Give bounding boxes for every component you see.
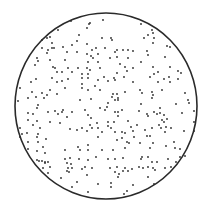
dot: [111, 96, 113, 98]
dot: [116, 166, 118, 168]
dot: [127, 170, 129, 172]
dot: [46, 52, 48, 54]
dot: [110, 37, 112, 39]
dot: [53, 47, 55, 49]
dot: [107, 80, 109, 82]
dot: [170, 166, 172, 168]
dot: [37, 141, 39, 143]
dot: [76, 181, 78, 183]
dot: [81, 83, 83, 85]
dot: [117, 97, 119, 99]
dot: [56, 93, 58, 95]
dot: [60, 177, 62, 179]
dot: [37, 60, 39, 62]
dot: [117, 115, 119, 117]
dot: [153, 111, 155, 113]
dot: [141, 156, 143, 158]
dot: [146, 135, 148, 137]
dot: [32, 113, 34, 115]
dot: [146, 113, 148, 115]
dot: [160, 127, 162, 129]
dot: [21, 133, 23, 135]
dot: [94, 85, 96, 87]
dot: [126, 141, 128, 143]
dot: [38, 160, 40, 162]
dot: [81, 87, 83, 89]
dot: [157, 71, 159, 73]
dot: [97, 127, 99, 129]
dot: [121, 137, 123, 139]
dot: [61, 111, 63, 113]
dot: [128, 142, 130, 144]
dot: [122, 49, 124, 51]
dot: [123, 193, 125, 195]
dot: [71, 44, 73, 46]
dot: [144, 129, 146, 131]
dot: [67, 167, 69, 169]
dot: [124, 132, 126, 134]
dot: [139, 142, 141, 144]
dot: [112, 149, 114, 151]
dot: [79, 99, 81, 101]
dot: [64, 87, 66, 89]
dot: [78, 158, 80, 160]
dot: [87, 77, 89, 79]
dot: [165, 145, 167, 147]
dot: [97, 61, 99, 63]
dot: [86, 67, 88, 69]
scattered-dots-group: [17, 19, 195, 195]
dot: [87, 61, 89, 63]
dot: [132, 81, 134, 83]
dot: [156, 161, 158, 163]
dot: [164, 131, 166, 133]
dot: [66, 51, 68, 53]
dot: [56, 71, 58, 73]
dot: [131, 168, 133, 170]
dot: [152, 66, 154, 68]
dot: [36, 136, 38, 138]
dot: [71, 186, 73, 188]
dot: [132, 67, 134, 69]
dot: [36, 107, 38, 109]
dot: [114, 51, 116, 53]
dot: [164, 167, 166, 169]
dot: [147, 34, 149, 36]
dot: [140, 61, 142, 63]
dot: [147, 166, 149, 168]
dot: [107, 125, 109, 127]
dot: [153, 37, 155, 39]
dot: [121, 109, 123, 111]
dot: [62, 46, 64, 48]
dot: [76, 51, 78, 53]
dot: [57, 29, 59, 31]
dot: [47, 111, 49, 113]
dot: [151, 161, 153, 163]
dot: [177, 70, 179, 72]
dot: [193, 110, 195, 112]
dot: [170, 127, 172, 129]
dot: [114, 158, 116, 160]
dot: [152, 142, 154, 144]
dot: [102, 19, 104, 21]
dot: [47, 49, 49, 51]
dot: [106, 106, 108, 108]
dot: [95, 156, 97, 158]
dot: [91, 49, 93, 51]
dot: [51, 42, 53, 44]
dot: [127, 120, 129, 122]
dot: [124, 167, 126, 169]
dot: [111, 39, 113, 41]
dot: [127, 57, 129, 59]
dot: [122, 170, 124, 172]
dot: [114, 131, 116, 133]
dot: [123, 76, 125, 78]
dot: [86, 27, 88, 29]
dot: [116, 56, 118, 58]
dot: [61, 80, 63, 82]
dot: [34, 64, 36, 66]
dot: [138, 110, 140, 112]
dot: [151, 29, 153, 31]
dot: [140, 158, 142, 160]
dot: [110, 182, 112, 184]
dot: [67, 78, 69, 80]
